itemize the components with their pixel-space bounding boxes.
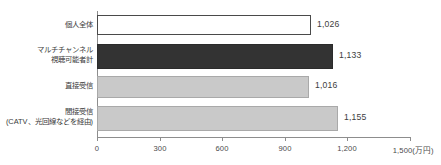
value-label-direct-reception: 1,016 [315,80,338,90]
x-tick-mark-300 [160,137,161,141]
bar-direct-reception [97,76,309,98]
x-tick-mark-1200 [347,137,348,141]
bar-multichannel-viewable-total [97,44,333,69]
bar-individual-total [97,15,311,35]
x-tick-label-1500-with-unit: 1,500(万円) [393,144,434,155]
x-tick-label-600: 600 [216,144,229,153]
category-label-text: 個人全体 [65,20,93,30]
plot-area: 1,026 1,133 1,016 1,155 0 300 600 900 1,… [97,11,410,137]
horizontal-bar-chart: 個人全体 マルチチャンネル 視聴可能者計 直接受信 間接受信 (CATV、光回線… [0,0,441,165]
value-label-multichannel-viewable-total: 1,133 [339,50,362,60]
category-label-text: 間接受信 (CATV、光回線などを経由) [6,107,93,127]
x-tick-mark-1500 [410,137,411,141]
category-label-text: 直接受信 [65,81,93,91]
category-label-indirect-reception: 間接受信 (CATV、光回線などを経由) [0,102,93,131]
x-tick-mark-600 [222,137,223,141]
category-label-direct-reception: 直接受信 [0,72,93,99]
x-tick-mark-900 [285,137,286,141]
x-axis-line [97,137,410,138]
bar-indirect-reception [97,106,338,131]
x-tick-label-900: 900 [279,144,292,153]
category-label-individual-total: 個人全体 [0,11,93,38]
value-label-indirect-reception: 1,155 [344,112,367,122]
value-label-individual-total: 1,026 [317,19,340,29]
x-tick-label-1200: 1,200 [337,144,357,153]
category-label-text: マルチチャンネル 視聴可能者計 [37,45,93,65]
category-label-multichannel-viewable-total: マルチチャンネル 視聴可能者計 [0,41,93,69]
x-tick-mark-0 [97,137,98,141]
x-tick-label-0: 0 [95,144,99,153]
x-tick-label-300: 300 [154,144,167,153]
